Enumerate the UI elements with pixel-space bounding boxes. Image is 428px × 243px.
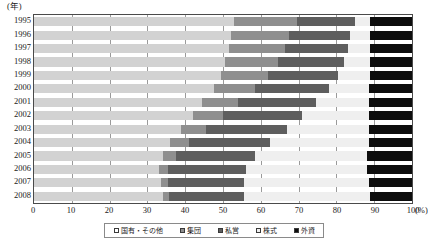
bar-segment-外資	[369, 138, 412, 147]
legend-item-株式[interactable]: 株式	[256, 227, 277, 235]
bar-segment-株式	[350, 31, 371, 40]
bar-segment-集団	[170, 138, 189, 147]
bar-segment-外資	[369, 98, 412, 107]
bar-segment-株式	[244, 192, 371, 201]
bar-segment-集団	[161, 178, 169, 187]
bar-row	[34, 84, 412, 93]
bar-segment-私営	[223, 111, 302, 120]
y-tick-label: 2005	[0, 151, 31, 160]
bar-segment-国有・その他	[34, 84, 214, 93]
legend-label: 国有・その他	[121, 227, 163, 235]
plot-area	[33, 14, 413, 204]
y-tick-label: 2001	[0, 97, 31, 106]
y-tick-label: 1997	[0, 43, 31, 52]
bar-row	[34, 17, 412, 26]
bar-segment-外資	[370, 71, 412, 80]
x-tick-label: 90	[371, 205, 380, 215]
x-tick-label: 10	[67, 205, 76, 215]
bar-row	[34, 125, 412, 134]
bar-segment-私営	[289, 31, 349, 40]
bar-segment-外資	[369, 178, 412, 187]
bar-segment-国有・その他	[34, 44, 229, 53]
bar-segment-集団	[163, 151, 176, 160]
gray-square-swatch	[180, 228, 185, 233]
bar-row	[34, 31, 412, 40]
x-tick-label: 40	[181, 205, 190, 215]
bar-segment-国有・その他	[34, 111, 193, 120]
bar-segment-集団	[229, 44, 286, 53]
bar-segment-外資	[370, 17, 412, 26]
x-axis-tick-labels: 0102030405060708090100	[33, 205, 413, 219]
bar-rows	[34, 15, 412, 203]
bar-segment-集団	[181, 125, 206, 134]
x-tick-label: 20	[105, 205, 114, 215]
bar-row	[34, 111, 412, 120]
bar-segment-集団	[159, 165, 168, 174]
bar-segment-株式	[338, 71, 370, 80]
legend-item-国有・その他[interactable]: 国有・その他	[114, 227, 163, 235]
bar-segment-株式	[348, 44, 371, 53]
bar-segment-私営	[268, 71, 338, 80]
bar-segment-外資	[369, 125, 412, 134]
bar-segment-国有・その他	[34, 71, 221, 80]
chart-legend: 国有・その他集団私営株式外資	[104, 223, 324, 238]
y-tick-label: 2004	[0, 137, 31, 146]
bar-segment-外資	[369, 111, 412, 120]
y-tick-label: 2002	[0, 110, 31, 119]
bar-segment-国有・その他	[34, 192, 163, 201]
y-axis-unit-label: (年)	[7, 1, 22, 11]
bar-segment-国有・その他	[34, 138, 170, 147]
bar-segment-外資	[367, 151, 412, 160]
bar-row	[34, 138, 412, 147]
bar-segment-国有・その他	[34, 125, 181, 134]
bar-segment-集団	[163, 192, 170, 201]
bar-row	[34, 44, 412, 53]
bar-segment-外資	[370, 31, 412, 40]
bar-segment-国有・その他	[34, 165, 159, 174]
bar-segment-外資	[370, 44, 412, 53]
bar-segment-国有・その他	[34, 17, 234, 26]
x-tick-label: 50	[219, 205, 228, 215]
bar-segment-私営	[169, 192, 243, 201]
bar-segment-株式	[255, 151, 367, 160]
bar-segment-私営	[189, 138, 270, 147]
bar-segment-私営	[238, 98, 315, 107]
bar-row	[34, 192, 412, 201]
y-tick-label: 1996	[0, 30, 31, 39]
bar-segment-株式	[287, 125, 368, 134]
x-tick-label: 30	[143, 205, 152, 215]
legend-label: 私営	[225, 227, 239, 235]
y-tick-label: 2006	[0, 164, 31, 173]
bar-segment-国有・その他	[34, 31, 231, 40]
bar-row	[34, 71, 412, 80]
legend-item-外資[interactable]: 外資	[294, 227, 315, 235]
bar-segment-株式	[244, 178, 369, 187]
legend-item-私営[interactable]: 私営	[218, 227, 239, 235]
y-tick-label: 2007	[0, 177, 31, 186]
bar-segment-株式	[302, 111, 368, 120]
y-tick-label: 2008	[0, 191, 31, 200]
x-tick-label: 60	[257, 205, 266, 215]
bar-segment-集団	[221, 71, 268, 80]
black-square-swatch	[294, 228, 299, 233]
legend-item-集団[interactable]: 集団	[180, 227, 201, 235]
bar-segment-外資	[370, 192, 412, 201]
bar-segment-私営	[278, 57, 344, 66]
bar-segment-株式	[344, 57, 370, 66]
bar-segment-国有・その他	[34, 178, 161, 187]
light-square-swatch	[256, 228, 261, 233]
bar-row	[34, 151, 412, 160]
bar-segment-株式	[355, 17, 370, 26]
bar-segment-株式	[246, 165, 367, 174]
bar-segment-私営	[255, 84, 329, 93]
bar-segment-私営	[285, 44, 347, 53]
bar-segment-私営	[206, 125, 287, 134]
bar-segment-外資	[369, 84, 412, 93]
legend-label: 外資	[301, 227, 315, 235]
bar-segment-私営	[168, 178, 244, 187]
x-tick-label: 80	[333, 205, 342, 215]
bar-row	[34, 165, 412, 174]
bar-segment-集団	[231, 31, 290, 40]
y-axis-tick-labels: 1995199619971998199920002001200220032004…	[0, 14, 31, 204]
